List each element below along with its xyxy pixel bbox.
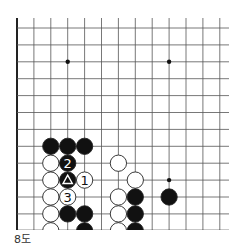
black-stone [43, 138, 59, 154]
white-stone [43, 172, 59, 188]
black-stone [76, 206, 92, 222]
go-board-diagram: 213 [0, 0, 243, 230]
black-stone: 2 [60, 155, 76, 171]
white-stone [110, 189, 126, 205]
white-stone [110, 223, 126, 230]
white-stone [43, 155, 59, 171]
black-stone [60, 172, 76, 188]
white-stone [110, 206, 126, 222]
black-stone [161, 189, 177, 205]
move-number: 2 [64, 156, 72, 171]
black-stone [76, 223, 92, 230]
white-stone [127, 172, 143, 188]
black-stone [60, 206, 76, 222]
black-stone [60, 138, 76, 154]
black-stone [127, 206, 143, 222]
diagram-caption: 8도 [14, 230, 31, 246]
white-stone: 3 [60, 189, 76, 205]
move-number: 3 [64, 190, 72, 205]
white-stone [43, 206, 59, 222]
move-number: 1 [80, 173, 88, 188]
white-stone [43, 189, 59, 205]
white-stone [110, 155, 126, 171]
black-stone [127, 189, 143, 205]
white-stone [43, 223, 59, 230]
star-point [66, 60, 70, 64]
star-point [167, 60, 171, 64]
stones: 213 [43, 138, 178, 230]
black-stone [127, 223, 143, 230]
white-stone: 1 [76, 172, 92, 188]
black-stone [76, 138, 92, 154]
star-point [167, 178, 171, 182]
